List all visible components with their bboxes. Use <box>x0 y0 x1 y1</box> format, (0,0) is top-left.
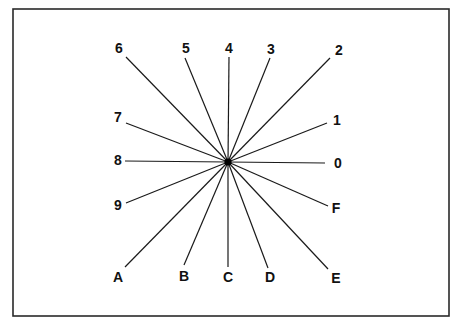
spoke-label-5: 5 <box>182 40 190 56</box>
spoke-label-b: B <box>179 268 189 284</box>
spoke-line-3 <box>228 58 270 162</box>
spoke-line-f <box>228 162 328 206</box>
radial-line-diagram: 0123456789ABCDEF <box>0 0 458 325</box>
spoke-line-0 <box>228 162 325 163</box>
spoke-line-5 <box>185 58 228 162</box>
spoke-label-8: 8 <box>114 152 122 168</box>
spoke-line-8 <box>125 161 228 162</box>
spoke-label-d: D <box>265 269 275 285</box>
spoke-line-e <box>228 162 328 269</box>
spoke-label-1: 1 <box>333 112 341 128</box>
spoke-line-6 <box>126 57 228 162</box>
spoke-label-7: 7 <box>114 109 122 125</box>
spoke-label-3: 3 <box>267 41 275 57</box>
spoke-label-9: 9 <box>114 197 122 213</box>
spoke-label-e: E <box>331 270 340 286</box>
spoke-line-4 <box>228 57 229 162</box>
spoke-label-f: F <box>332 200 341 216</box>
spoke-label-4: 4 <box>225 40 233 56</box>
spoke-line-a <box>125 162 228 267</box>
center-hub-dot <box>224 158 231 165</box>
spoke-line-d <box>228 162 268 268</box>
spoke-label-0: 0 <box>334 155 342 171</box>
spoke-line-1 <box>228 123 327 162</box>
spoke-line-2 <box>228 58 330 162</box>
spoke-label-c: C <box>223 269 233 285</box>
spoke-label-a: A <box>113 269 123 285</box>
spoke-label-6: 6 <box>115 40 123 56</box>
spoke-label-2: 2 <box>335 42 343 58</box>
spoke-line-7 <box>126 123 228 162</box>
